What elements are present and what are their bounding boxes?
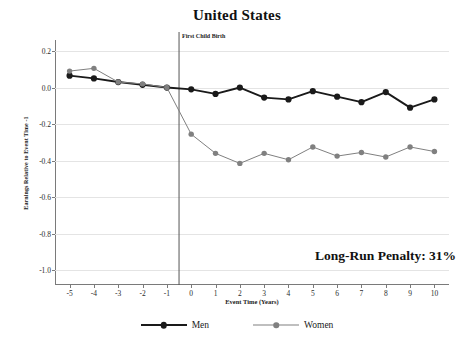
x-tick-label: -5 [66,289,72,298]
x-tick-mark [386,285,387,288]
data-point-women [164,85,169,90]
x-tick-label: -3 [115,289,121,298]
x-tick-mark [167,285,168,288]
legend-entry-men[interactable]: Men [141,320,209,330]
legend-marker-icon [253,321,299,330]
x-tick-mark [434,285,435,288]
data-point-women [310,144,315,149]
data-point-men [261,94,267,100]
x-tick-label: 4 [287,289,291,298]
data-point-women [261,151,266,156]
y-tick-label: 0.0 [42,83,51,92]
x-tick-mark [191,285,192,288]
x-tick-mark [361,285,362,288]
legend-dot [160,322,167,329]
x-tick-mark [118,285,119,288]
x-tick-label: -4 [91,289,97,298]
x-tick-mark [410,285,411,288]
data-point-men [188,86,194,92]
x-tick-mark [94,285,95,288]
y-axis-title: Earnings Relative to Event Time -1 [20,40,32,285]
x-tick-mark [240,285,241,288]
data-point-men [285,96,291,102]
x-tick-mark [313,285,314,288]
data-point-men [91,75,97,81]
x-tick-label: 8 [384,289,388,298]
legend-label: Men [192,320,209,330]
x-axis-title: Event Time (Years) [55,298,449,305]
data-point-men [212,91,218,97]
x-tick-mark [70,285,71,288]
data-point-women [213,151,218,156]
y-tick-label: -0.8 [39,229,51,238]
data-point-women [116,79,121,84]
chart-legend: MenWomen [0,320,474,330]
chart-title: United States [0,7,474,24]
legend-entry-women[interactable]: Women [253,320,333,330]
x-tick-label: 2 [238,289,242,298]
data-point-men [358,99,364,105]
event-line-label: First Child Birth [182,33,225,39]
legend-label: Women [304,320,333,330]
x-tick-label: -2 [139,289,145,298]
data-point-women [383,154,388,159]
data-point-women [140,81,145,86]
data-point-men [431,96,437,102]
data-point-men [310,88,316,94]
x-tick-label: 0 [189,289,193,298]
x-tick-mark [143,285,144,288]
y-tick-label: -0.6 [39,193,51,202]
data-point-women [334,153,339,158]
data-point-women [286,157,291,162]
y-tick-label: -0.2 [39,120,51,129]
series-line-women [70,68,435,163]
data-point-men [407,105,413,111]
x-tick-label: 1 [214,289,218,298]
x-tick-mark [288,285,289,288]
chart-figure: United States Earnings Relative to Event… [0,0,474,349]
data-point-women [407,144,412,149]
y-tick-label: -0.4 [39,156,51,165]
data-point-men [237,84,243,90]
x-tick-mark [337,285,338,288]
x-tick-mark [264,285,265,288]
x-tick-label: 9 [408,289,412,298]
data-point-women [359,150,364,155]
x-tick-mark [216,285,217,288]
x-tick-label: 7 [360,289,364,298]
data-point-men [383,89,389,95]
y-tick-label: -1.0 [39,266,51,275]
y-axis-title-text: Earnings Relative to Event Time -1 [23,116,29,209]
x-tick-label: 5 [311,289,315,298]
y-tick-label: 0.2 [42,46,51,55]
legend-marker-icon [141,321,187,330]
x-tick-label: 3 [262,289,266,298]
data-point-men [334,94,340,100]
data-point-women [432,149,437,154]
x-tick-label: 6 [335,289,339,298]
series-line-men [70,76,435,108]
data-point-women [237,161,242,166]
data-point-women [189,131,194,136]
long-run-penalty-annotation: Long-Run Penalty: 31% [315,248,456,264]
data-point-women [91,66,96,71]
legend-dot [273,322,279,328]
x-tick-label: -1 [164,289,170,298]
x-tick-label: 10 [431,289,439,298]
data-point-women [67,68,72,73]
